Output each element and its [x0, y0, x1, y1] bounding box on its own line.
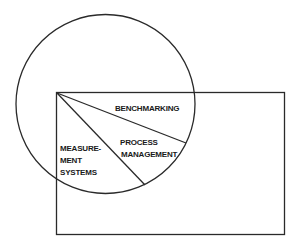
rectangle-region	[57, 93, 285, 235]
label-measurement-line1: MEASURE-	[60, 144, 102, 153]
label-process-line1: PROCESS	[120, 138, 159, 147]
label-benchmarking: BENCHMARKING	[115, 104, 179, 113]
label-process-line2: MANAGEMENT	[121, 150, 178, 159]
venn-diagram: BENCHMARKING PROCESS MANAGEMENT MEASURE-…	[0, 0, 299, 248]
divider-line-benchmarking-process	[57, 93, 186, 143]
label-measurement-line3: SYSTEMS	[60, 168, 98, 177]
label-measurement-line2: MENT	[60, 156, 82, 165]
